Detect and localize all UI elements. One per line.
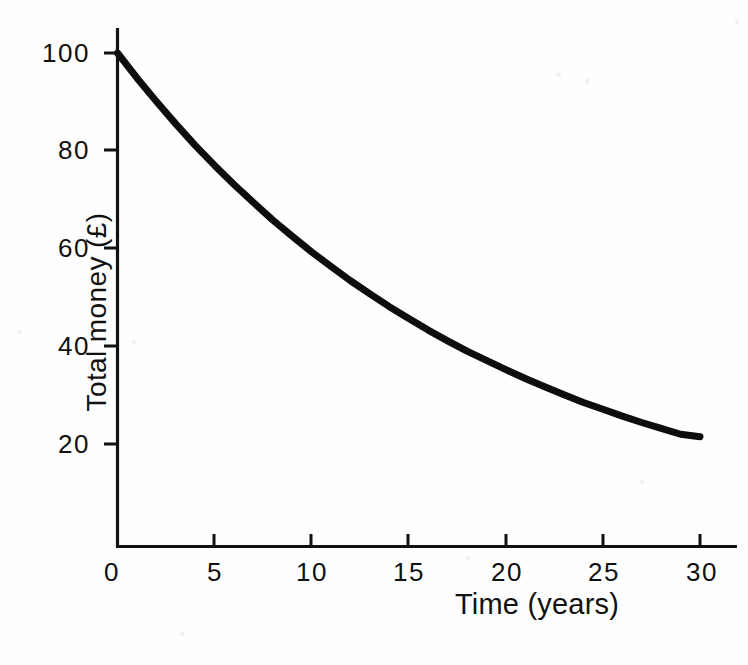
x-tick-label-20: 20	[491, 559, 523, 585]
x-axis-title: Time (years)	[455, 588, 619, 621]
x-tick-label-5: 5	[207, 559, 223, 585]
x-tick-label-15: 15	[393, 559, 425, 585]
y-tick-label-100: 100	[24, 40, 90, 66]
x-tick-label-25: 25	[588, 559, 620, 585]
y-axis-title: Total money (£)	[81, 152, 113, 472]
x-tick-label-10: 10	[296, 559, 328, 585]
x-tick-label-30: 30	[686, 559, 718, 585]
x-tick-label-0: 0	[104, 559, 120, 585]
chart-figure: 100 80 60 40 20 0 5 10 15 20 25 30 Total…	[0, 0, 748, 665]
decay-curve-line	[118, 53, 701, 437]
